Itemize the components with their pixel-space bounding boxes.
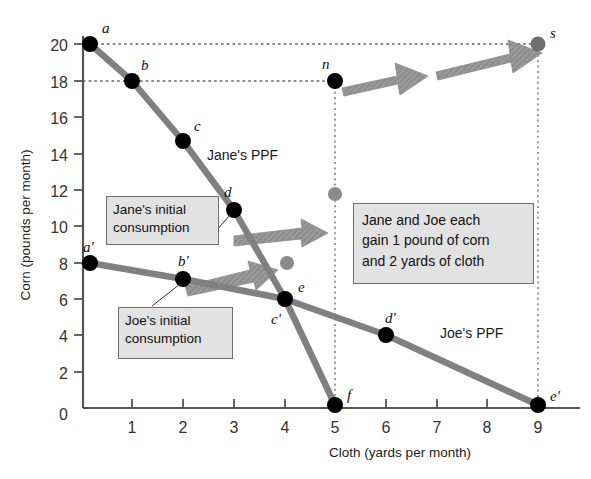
- point-s-marker: [531, 37, 546, 52]
- point-b-label: b: [141, 57, 149, 73]
- x-tick-1: 1: [128, 419, 137, 436]
- gain-summary-callout: Jane and Joe each gain 1 pound of corn a…: [353, 203, 534, 284]
- point-n-label: n: [322, 56, 330, 72]
- gain-callout-line1: Jane and Joe each: [362, 210, 525, 230]
- joe-callout-leader: [152, 284, 180, 306]
- joe-ppf-label: Joe's PPF: [440, 325, 503, 341]
- point-e-prime: [530, 397, 546, 413]
- joe-callout-line1: Joe's initial: [125, 312, 226, 330]
- x-tick-4: 4: [281, 419, 290, 436]
- x-axis-title: Cloth (yards per month): [329, 445, 471, 460]
- jane-ppf-label: Jane's PPF: [207, 147, 278, 163]
- point-b-prime: [175, 271, 191, 287]
- jane-callout-line1: Jane's initial: [113, 201, 212, 219]
- x-tick-6: 6: [382, 419, 391, 436]
- point-b-prime-label: b': [178, 253, 190, 269]
- gain-callout-line2: gain 1 pound of corn: [362, 230, 525, 250]
- y-tick-18: 18: [50, 74, 68, 91]
- y-tick-8: 8: [59, 256, 68, 273]
- y-tick-16: 16: [50, 110, 68, 127]
- x-tick-2: 2: [179, 419, 188, 436]
- point-f: [327, 397, 343, 413]
- jane-new-consumption-point: [328, 187, 342, 201]
- x-tick-3: 3: [230, 419, 239, 436]
- joe-callout-line2: consumption: [125, 330, 226, 348]
- y-tick-20: 20: [50, 37, 68, 54]
- point-s-label: s: [550, 25, 556, 41]
- point-e-prime-label: e': [550, 388, 561, 404]
- point-c: [175, 133, 191, 149]
- point-d: [226, 202, 242, 218]
- y-tick-12: 12: [50, 183, 68, 200]
- y-tick-2: 2: [59, 365, 68, 382]
- point-a: [82, 36, 98, 52]
- joe-initial-consumption-callout: Joe's initial consumption: [118, 307, 233, 359]
- point-e: [277, 291, 293, 307]
- point-d-label: d: [224, 184, 232, 200]
- point-d-prime-label: d': [385, 310, 397, 326]
- ppf-comparative-advantage-figure: 20 18 16 14 12 10 8 6 4 2 0 1 2 3 4 5 6 …: [0, 0, 591, 479]
- point-b: [124, 73, 140, 89]
- y-ticks: [74, 44, 83, 372]
- joe-new-consumption-point: [280, 256, 294, 270]
- point-a-prime: [82, 255, 98, 271]
- point-a-prime-label: a': [83, 239, 95, 255]
- point-c-label: c: [194, 118, 201, 134]
- jane-initial-consumption-callout: Jane's initial consumption: [106, 196, 219, 245]
- gain-callout-line3: and 2 yards of cloth: [362, 251, 525, 271]
- point-d-prime: [378, 327, 394, 343]
- x-tick-7: 7: [433, 419, 442, 436]
- specialization-arrow-2: [436, 40, 542, 80]
- y-tick-10: 10: [50, 219, 68, 236]
- x-tick-9: 9: [534, 419, 543, 436]
- x-tick-labels: 1 2 3 4 5 6 7 8 9: [128, 419, 543, 436]
- point-a-label: a: [102, 20, 110, 36]
- jane-callout-line2: consumption: [113, 219, 212, 237]
- y-tick-14: 14: [50, 147, 68, 164]
- y-tick-6: 6: [59, 292, 68, 309]
- point-f-label: f: [347, 387, 353, 403]
- x-tick-8: 8: [483, 419, 492, 436]
- y-tick-0: 0: [59, 406, 68, 423]
- y-tick-4: 4: [59, 328, 68, 345]
- x-tick-5: 5: [331, 419, 340, 436]
- point-e-label: e: [298, 279, 305, 295]
- point-c-prime-label: c': [271, 311, 282, 327]
- specialization-arrow-1: [342, 63, 428, 96]
- y-tick-labels: 20 18 16 14 12 10 8 6 4 2 0: [50, 37, 68, 423]
- point-n: [327, 73, 343, 89]
- y-axis-title: Corn (pounds per month): [18, 150, 33, 301]
